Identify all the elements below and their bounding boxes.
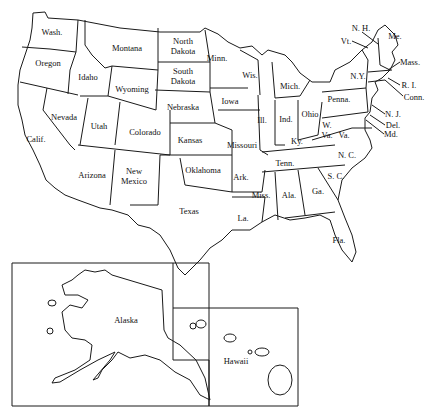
- hawaii-island-maui: [255, 348, 269, 356]
- hawaii-island-oahu: [196, 320, 206, 328]
- leader-mass: [388, 62, 400, 70]
- alaska-outline: [52, 270, 210, 400]
- boundary-az-nm: [110, 150, 115, 205]
- label-arizona: Arizona: [78, 170, 105, 180]
- hawaii-island-molokai: [224, 334, 236, 342]
- label-ark: Ark.: [233, 172, 248, 182]
- hawaii-island-lanai: [248, 350, 252, 354]
- label-mich: Mich.: [280, 81, 300, 91]
- label-montana: Montana: [112, 43, 142, 53]
- boundary-ok-tx: [180, 158, 232, 192]
- boundary-wa-or: [22, 47, 76, 52]
- boundary-oh: [298, 100, 322, 140]
- label-ohio: Ohio: [302, 109, 319, 119]
- label-ky: Ky.: [291, 136, 303, 146]
- label-ri: R. I.: [402, 80, 417, 90]
- label-hawaii: Hawaii: [224, 356, 249, 366]
- label-new-mexico: NewMexico: [121, 166, 147, 186]
- label-nh: N. H.: [352, 23, 371, 33]
- label-oklahoma: Oklahoma: [185, 165, 220, 175]
- boundary-ms-al: [275, 172, 278, 220]
- boundary-ny-ne: [362, 50, 368, 88]
- label-idaho: Idaho: [78, 72, 97, 82]
- label-miss: Miss.: [252, 190, 271, 200]
- label-alaska: Alaska: [114, 315, 138, 325]
- label-calif: Calif.: [26, 134, 45, 144]
- label-colorado: Colorado: [129, 127, 161, 137]
- alaska-island: [47, 328, 53, 334]
- label-la: La.: [237, 213, 248, 223]
- label-sc: S. C.: [328, 171, 345, 181]
- label-iowa: Iowa: [222, 96, 239, 106]
- label-w-va: W.Va.: [321, 120, 332, 140]
- alaska-inset-frame: [12, 263, 209, 406]
- boundary-ut-co: [115, 102, 120, 145]
- hawaii-island-kauai: [190, 323, 196, 329]
- label-texas: Texas: [179, 206, 199, 216]
- label-wis: Wis.: [242, 70, 257, 80]
- label-missouri: Missouri: [227, 140, 257, 150]
- label-conn: Conn.: [404, 92, 425, 102]
- boundary-sd-ne: [155, 90, 210, 92]
- label-tenn: Tenn.: [276, 158, 295, 168]
- leader-nj: [372, 105, 385, 114]
- label-nc: N. C.: [338, 150, 356, 160]
- boundary-mn-dakotas: [205, 30, 232, 130]
- hawaii-inset-frame: [173, 263, 298, 406]
- leader-vt: [352, 41, 368, 48]
- hawaii-island-big: [268, 365, 292, 395]
- leader-conn: [385, 80, 403, 96]
- label-ny: N.Y.: [350, 71, 365, 81]
- label-nj: N. J.: [385, 109, 401, 119]
- label-oregon: Oregon: [35, 58, 61, 68]
- label-md: Md.: [384, 129, 398, 139]
- label-fla: Fla.: [333, 235, 346, 245]
- label-utah: Utah: [91, 121, 108, 131]
- boundary-co-ks: [130, 110, 170, 205]
- label-penna: Penna.: [328, 94, 351, 104]
- label-ill: Ill.: [257, 115, 267, 125]
- boundary-id-mt: [85, 20, 112, 68]
- boundary-il: [258, 95, 268, 155]
- label-wyoming: Wyoming: [115, 84, 149, 94]
- label-va: Va.: [338, 130, 349, 140]
- label-kansas: Kansas: [178, 135, 203, 145]
- label-wash: Wash.: [42, 27, 63, 37]
- alaska-island: [48, 300, 56, 306]
- label-vt: Vt.: [341, 36, 352, 46]
- label-north-dakota: NorthDakota: [171, 36, 196, 56]
- label-me: Me.: [388, 31, 401, 41]
- label-minn: Minn.: [207, 53, 228, 63]
- boundary-wa-id: [68, 20, 78, 94]
- label-ala: Ala.: [282, 190, 296, 200]
- boundary-new-england: [378, 38, 390, 70]
- leader-del: [370, 115, 385, 125]
- label-ga: Ga.: [312, 186, 324, 196]
- boundary-tenn: [262, 145, 335, 152]
- label-nevada: Nevada: [51, 112, 77, 122]
- label-ind: Ind.: [279, 114, 292, 124]
- boundary-mi: [272, 62, 310, 98]
- boundary-nv-ut: [80, 98, 88, 145]
- label-south-dakota: SouthDakota: [171, 66, 196, 86]
- boundary-ut-az: [78, 145, 170, 155]
- boundary-al-ga: [298, 170, 305, 215]
- label-mass: Mass.: [400, 57, 420, 67]
- label-nebraska: Nebraska: [167, 102, 199, 112]
